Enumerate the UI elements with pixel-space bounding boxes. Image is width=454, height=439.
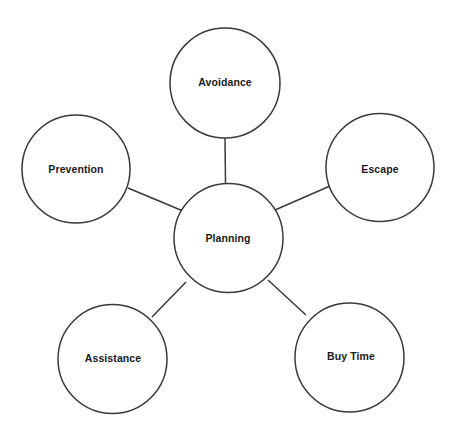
avoidance-label: Avoidance — [198, 76, 252, 88]
node-prevention[interactable]: Prevention — [22, 115, 130, 223]
assistance-label: Assistance — [85, 352, 142, 364]
connector-buytime-planning — [268, 280, 306, 315]
connector-prevention-planning — [128, 188, 183, 211]
node-avoidance[interactable]: Avoidance — [170, 28, 280, 138]
mindmap-diagram: Avoidance Escape Buy Time Assistance Pre… — [0, 0, 454, 439]
escape-label: Escape — [361, 163, 398, 175]
node-buy-time[interactable]: Buy Time — [295, 303, 404, 412]
planning-label: Planning — [205, 232, 250, 244]
buy-time-label: Buy Time — [327, 350, 375, 362]
node-escape[interactable]: Escape — [326, 114, 434, 222]
connector-escape-planning — [275, 186, 330, 210]
node-planning[interactable]: Planning — [174, 184, 283, 293]
prevention-label: Prevention — [48, 163, 103, 175]
node-assistance[interactable]: Assistance — [58, 305, 167, 414]
connector-assistance-planning — [152, 282, 186, 317]
mindmap-canvas: Avoidance Escape Buy Time Assistance Pre… — [0, 0, 454, 439]
connector-avoidance-planning — [225, 138, 226, 184]
